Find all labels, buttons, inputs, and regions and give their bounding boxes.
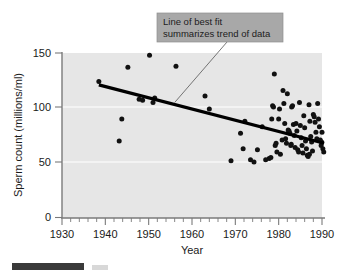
data-point (238, 131, 243, 136)
data-point (269, 117, 274, 122)
data-point (289, 142, 294, 147)
data-point (119, 117, 124, 122)
data-point (281, 101, 286, 106)
data-point (294, 121, 299, 126)
data-point (140, 98, 145, 103)
figure-container: 0 50 100 150 1930 1940 1950 1960 1970 19… (0, 0, 338, 270)
data-point (300, 151, 305, 156)
y-axis-tick-labels: 0 50 100 150 (33, 47, 51, 224)
data-point (125, 65, 130, 70)
data-point (290, 103, 295, 108)
data-point (248, 157, 253, 162)
data-point (271, 104, 276, 109)
annotation-line-2: summarizes trend of data (163, 28, 271, 39)
caption-sub-mark (92, 265, 108, 270)
data-point (207, 107, 212, 112)
y-axis-ticks (55, 53, 62, 218)
data-point (147, 53, 152, 58)
caption-bar-group (12, 263, 108, 270)
data-point (272, 71, 277, 76)
x-tick-label-1980: 1980 (266, 228, 290, 240)
x-tick-label-1930: 1930 (50, 228, 74, 240)
data-point (283, 136, 288, 141)
data-point (301, 113, 306, 118)
data-point (307, 152, 312, 157)
y-tick-label-150: 150 (33, 47, 51, 59)
x-tick-label-1990: 1990 (310, 228, 334, 240)
y-tick-label-0: 0 (45, 211, 51, 223)
y-axis-label: Sperm count (millions/ml) (12, 73, 24, 197)
data-point (307, 119, 312, 124)
x-tick-label-1950: 1950 (136, 228, 160, 240)
data-point (307, 102, 312, 107)
data-point (229, 158, 234, 163)
data-point (276, 117, 281, 122)
data-point (302, 125, 307, 130)
data-point (294, 129, 299, 134)
data-point (173, 64, 178, 69)
data-point (117, 139, 122, 144)
data-point (263, 157, 268, 162)
scatter-chart: 0 50 100 150 1930 1940 1950 1960 1970 19… (0, 0, 338, 270)
data-point (268, 155, 273, 160)
y-tick-label-100: 100 (33, 101, 51, 113)
data-point (313, 130, 318, 135)
data-point (278, 152, 283, 157)
data-point (316, 117, 321, 122)
x-axis-tick-labels: 1930 1940 1950 1960 1970 1980 1990 (50, 228, 334, 240)
plot-area-background (62, 53, 322, 218)
data-point (304, 146, 309, 151)
data-point (203, 93, 208, 98)
x-axis-ticks (62, 218, 322, 225)
x-axis-label: Year (181, 244, 204, 256)
annotation-callout: Line of best fit summarizes trend of dat… (157, 13, 283, 42)
caption-bar (12, 263, 84, 270)
annotation-line-1: Line of best fit (163, 16, 223, 27)
data-point (300, 143, 305, 148)
data-point (320, 130, 325, 135)
data-point (274, 141, 279, 146)
x-tick-label-1940: 1940 (93, 228, 117, 240)
data-point (315, 101, 320, 106)
data-point (298, 123, 303, 128)
data-point (285, 91, 290, 96)
x-tick-label-1960: 1960 (180, 228, 204, 240)
data-point (241, 146, 246, 151)
data-point (281, 88, 286, 93)
data-point (321, 150, 326, 155)
data-point (282, 121, 287, 126)
data-point (284, 141, 289, 146)
x-tick-label-1970: 1970 (223, 228, 247, 240)
data-point (312, 114, 317, 119)
data-point (277, 107, 282, 112)
data-point (317, 124, 322, 129)
data-point (96, 79, 101, 84)
y-tick-label-50: 50 (39, 156, 51, 168)
data-point (255, 147, 260, 152)
data-point (297, 100, 302, 105)
data-point (296, 150, 301, 155)
